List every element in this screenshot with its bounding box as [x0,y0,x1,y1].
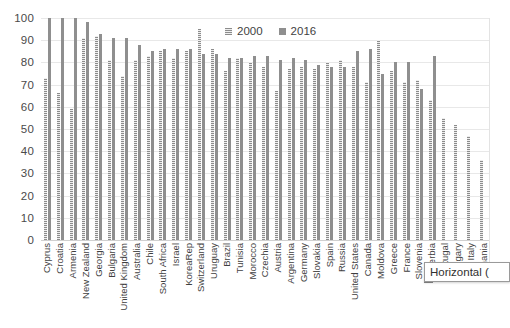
bar-2016[interactable] [163,49,166,240]
y-axis: 1009080706050403020100 [0,18,38,240]
bar-group [413,18,426,240]
bar-2000[interactable] [159,51,162,240]
x-axis-label: Brazil [222,243,232,267]
bar-2016[interactable] [433,56,436,240]
bar-2000[interactable] [365,82,368,240]
bar-group [221,18,234,240]
bar-2016[interactable] [304,60,307,240]
bar-group [144,18,157,240]
bar-2016[interactable] [266,56,269,240]
bar-2000[interactable] [82,38,85,240]
bar-group [362,18,375,240]
y-axis-tick-30: 30 [21,167,34,179]
bar-2000[interactable] [454,125,457,240]
bar-2000[interactable] [377,40,380,240]
bar-2000[interactable] [313,69,316,240]
bar-group [79,18,92,240]
bar-2000[interactable] [224,71,227,240]
legend-item-2000[interactable]: 2000 [225,25,263,37]
bar-2000[interactable] [70,109,73,240]
bar-2016[interactable] [125,38,128,240]
x-axis-label-cell: Morocco [246,241,259,327]
bar-2000[interactable] [467,136,470,240]
bar-2016[interactable] [381,74,384,241]
bar-2000[interactable] [95,36,98,240]
x-axis-label-cell: South Africa [156,241,169,327]
bar-2000[interactable] [390,71,393,240]
bar-group [105,18,118,240]
bar-2016[interactable] [215,54,218,240]
bar-2016[interactable] [279,60,282,240]
bar-2016[interactable] [317,65,320,240]
bar-2016[interactable] [202,54,205,240]
x-axis-label-cell: Uruguay [208,241,221,327]
legend-item-2016[interactable]: 2016 [279,25,317,37]
bar-2016[interactable] [151,51,154,240]
horizontal-axis-title-box[interactable]: Horizontal ( [424,262,510,282]
bar-2016[interactable] [394,62,397,240]
bar-2016[interactable] [407,62,410,240]
bar-2000[interactable] [300,67,303,240]
bar-2000[interactable] [416,80,419,240]
x-axis-label-cell: Australia [131,241,144,327]
bar-2000[interactable] [326,62,329,240]
bar-2000[interactable] [339,60,342,240]
bar-2016[interactable] [176,49,179,240]
x-axis-label-cell: Serbia [426,241,439,327]
bar-2016[interactable] [48,18,51,240]
x-axis-label-cell: Austria [272,241,285,327]
bar-group [259,18,272,240]
bar-2016[interactable] [292,58,295,240]
bar-group [208,18,221,240]
bar-2000[interactable] [249,62,252,240]
bar-2000[interactable] [480,160,483,240]
bar-2000[interactable] [211,49,214,240]
bar-2000[interactable] [429,100,432,240]
bar-2000[interactable] [108,60,111,240]
bar-2000[interactable] [262,67,265,240]
bar-2000[interactable] [57,93,60,240]
y-axis-tick-20: 20 [21,190,34,202]
bar-2000[interactable] [121,76,124,240]
bar-2000[interactable] [275,91,278,240]
bar-2016[interactable] [330,67,333,240]
x-axis-label-cell: Brazil [221,241,234,327]
bar-2016[interactable] [99,34,102,240]
x-axis-label: Slovenia [415,243,425,279]
y-axis-tick-0: 0 [27,234,34,246]
bar-group [375,18,388,240]
bar-2000[interactable] [352,67,355,240]
bar-group [310,18,323,240]
plot-area [41,18,490,240]
bar-2000[interactable] [442,118,445,240]
bar-2016[interactable] [343,67,346,240]
bar-2016[interactable] [138,45,141,240]
bar-2016[interactable] [86,22,89,240]
bar-2000[interactable] [147,56,150,240]
bar-2000[interactable] [172,58,175,240]
bar-2000[interactable] [236,58,239,240]
bar-group [67,18,80,240]
x-axis-label: Israel [171,243,181,266]
bar-2000[interactable] [134,60,137,240]
bar-2016[interactable] [61,18,64,240]
bar-2000[interactable] [44,78,47,240]
bar-2016[interactable] [228,58,231,240]
bar-group [285,18,298,240]
bar-2016[interactable] [420,89,423,240]
bar-2000[interactable] [403,82,406,240]
bar-2016[interactable] [74,18,77,240]
bar-2016[interactable] [356,51,359,240]
x-axis-label-cell: Armenia [67,241,80,327]
bar-2000[interactable] [288,69,291,240]
x-axis-label-cell: Chile [144,241,157,327]
bar-2016[interactable] [240,58,243,240]
bar-2016[interactable] [189,49,192,240]
bar-2016[interactable] [369,49,372,240]
bar-2000[interactable] [185,51,188,240]
bar-2016[interactable] [112,38,115,240]
y-axis-tick-80: 80 [21,56,34,68]
x-axis-label: Switzerland [197,243,207,292]
bar-2000[interactable] [198,29,201,240]
bar-2016[interactable] [253,56,256,240]
